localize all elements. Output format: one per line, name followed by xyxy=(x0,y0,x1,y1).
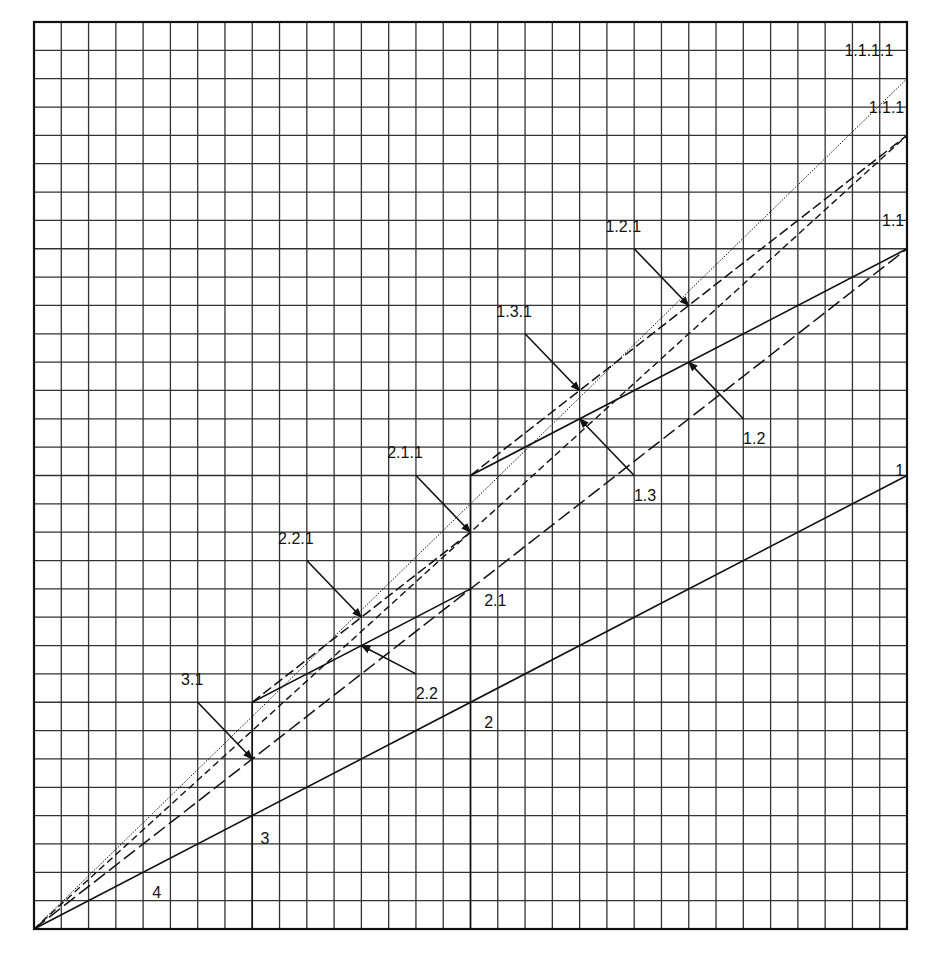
label-1-2: 1.2 xyxy=(743,430,765,447)
label-4: 4 xyxy=(152,884,161,901)
construction-diagram: 1.1.1.11.1.11.111.2.11.3.11.21.32.1.12.2… xyxy=(0,0,932,953)
label-1-3-1: 1.3.1 xyxy=(496,303,532,320)
label-3-1: 3.1 xyxy=(181,671,203,688)
label-1-2-1: 1.2.1 xyxy=(605,218,641,235)
label-2-2-1: 2.2.1 xyxy=(278,530,314,547)
label-2-1: 2.1 xyxy=(484,592,506,609)
label-2-2: 2.2 xyxy=(416,685,438,702)
label-1: 1 xyxy=(895,462,904,479)
diagram-labels: 1.1.1.11.1.11.111.2.11.3.11.21.32.1.12.2… xyxy=(152,42,904,901)
label-2: 2 xyxy=(484,714,493,731)
label-3: 3 xyxy=(260,830,269,847)
label-2-1-1: 2.1.1 xyxy=(387,444,423,461)
label-1-3: 1.3 xyxy=(634,487,656,504)
label-1-1: 1.1 xyxy=(882,212,904,229)
label-1-1-1: 1.1.1 xyxy=(869,99,905,116)
label-1-1-1-1: 1.1.1.1 xyxy=(844,42,893,59)
